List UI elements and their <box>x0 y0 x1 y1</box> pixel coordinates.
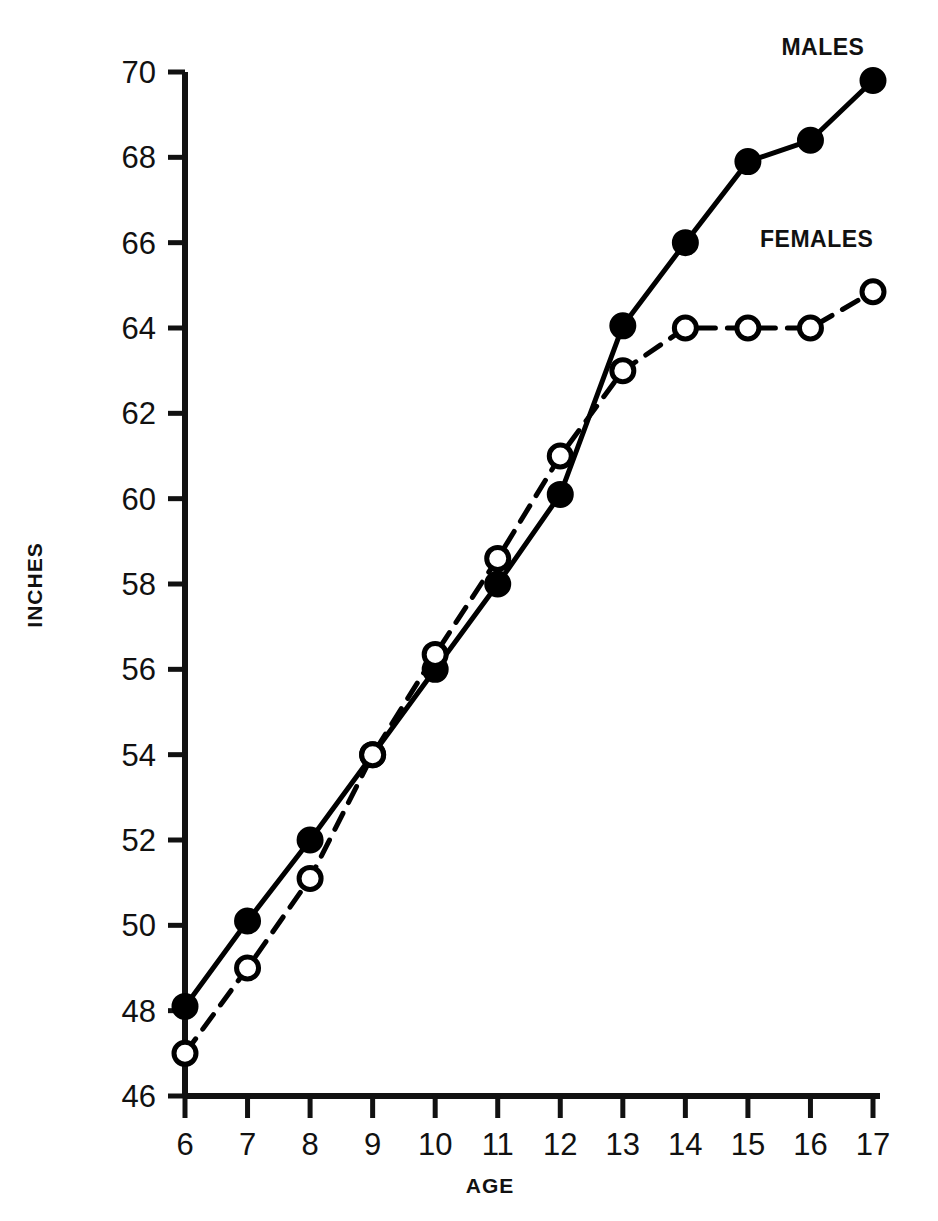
x-tick-label: 15 <box>731 1127 765 1162</box>
data-point-females-9 <box>362 744 384 766</box>
x-tick-label: 13 <box>606 1127 640 1162</box>
x-tick-label: 6 <box>176 1127 193 1162</box>
y-tick-label: 58 <box>122 567 156 602</box>
x-tick-label: 10 <box>418 1127 452 1162</box>
data-point-males-11 <box>486 572 510 596</box>
x-tick-label: 12 <box>543 1127 577 1162</box>
data-point-females-15 <box>737 317 759 339</box>
data-point-females-6 <box>174 1042 196 1064</box>
data-point-males-6 <box>173 994 197 1018</box>
x-tick-label: 16 <box>793 1127 827 1162</box>
x-tick-label: 14 <box>668 1127 702 1162</box>
y-tick-label: 68 <box>122 140 156 175</box>
x-tick-label: 11 <box>482 1127 514 1162</box>
y-tick-label: 50 <box>122 908 156 943</box>
data-point-females-7 <box>237 957 259 979</box>
data-point-females-17 <box>862 281 884 303</box>
y-axis-title: INCHES <box>23 542 46 627</box>
data-point-females-16 <box>799 317 821 339</box>
y-tick-label: 52 <box>122 823 156 858</box>
data-point-males-7 <box>236 909 260 933</box>
y-tick-label: 64 <box>122 311 156 346</box>
data-point-males-15 <box>736 150 760 174</box>
y-tick-label: 54 <box>122 738 156 773</box>
y-tick-label: 46 <box>122 1079 156 1114</box>
data-point-females-10 <box>424 643 446 665</box>
data-point-males-16 <box>798 128 822 152</box>
x-tick-label: 17 <box>856 1127 890 1162</box>
y-tick-label: 70 <box>122 55 156 90</box>
y-tick-label: 62 <box>122 396 156 431</box>
data-point-females-11 <box>487 547 509 569</box>
y-tick-label: 60 <box>122 482 156 517</box>
data-point-females-12 <box>549 445 571 467</box>
series-annotation-females: FEMALES <box>760 226 873 252</box>
growth-chart-figure: 70686664626058565452504846 6789101112131… <box>0 0 938 1221</box>
series-annotation-males: MALES <box>781 34 864 60</box>
x-tick-label: 8 <box>301 1127 318 1162</box>
data-point-males-8 <box>298 828 322 852</box>
data-point-females-13 <box>612 360 634 382</box>
data-point-males-13 <box>611 314 635 338</box>
chart-background <box>0 0 938 1221</box>
y-tick-label: 48 <box>122 994 156 1029</box>
data-point-males-14 <box>673 231 697 255</box>
x-tick-label: 9 <box>364 1127 381 1162</box>
data-point-females-8 <box>299 867 321 889</box>
data-point-females-14 <box>674 317 696 339</box>
x-tick-label: 7 <box>239 1127 256 1162</box>
y-tick-label: 56 <box>122 652 156 687</box>
x-axis-title: AGE <box>466 1174 515 1197</box>
data-point-males-12 <box>548 482 572 506</box>
y-tick-label: 66 <box>122 226 156 261</box>
data-point-males-17 <box>861 69 885 93</box>
